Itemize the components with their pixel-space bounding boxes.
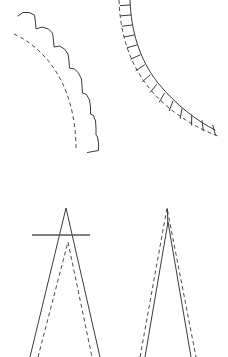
tick-mark: [121, 15, 131, 16]
bl-dashed-chevron: [38, 242, 92, 357]
tl-inner-dashed-arc: [14, 34, 76, 149]
tl-crenellated-arc: [18, 13, 99, 153]
tr-tick-marks: [120, 5, 215, 135]
tr-inner-dashed-arc: [119, 0, 218, 136]
tick-mark: [124, 35, 134, 37]
figure-canvas: [0, 0, 228, 357]
panel-bottom-right: [140, 208, 196, 357]
panel-top-right: [119, 0, 218, 136]
tick-mark: [180, 109, 182, 119]
panel-bottom-left: [30, 208, 100, 357]
panel-top-left: [14, 13, 99, 153]
tick-mark: [150, 85, 156, 93]
figure-sheet: [0, 0, 228, 357]
tick-mark: [131, 55, 140, 59]
bl-solid-chevron: [30, 208, 100, 357]
tick-mark: [169, 101, 172, 110]
tick-mark: [136, 65, 144, 71]
tick-mark: [127, 45, 137, 48]
tick-mark: [122, 25, 132, 26]
tick-mark: [142, 75, 150, 82]
br-solid-chevron: [145, 222, 191, 357]
tick-mark: [120, 5, 130, 6]
tick-mark: [159, 93, 164, 102]
